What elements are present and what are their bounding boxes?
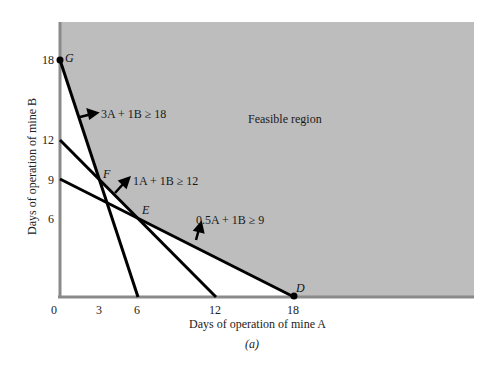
x-tick-12: 12 bbox=[209, 303, 221, 317]
constraint-label-3: 0.5A + 1B ≥ 9 bbox=[196, 213, 264, 227]
y-tick-9: 9 bbox=[48, 173, 54, 187]
x-tick-6: 6 bbox=[134, 303, 140, 317]
caption: (a) bbox=[245, 337, 259, 351]
y-axis-title: Days of operation of mine B bbox=[25, 98, 39, 235]
point-label-g: G bbox=[65, 51, 74, 65]
constraint-label-2: 1A + 1B ≥ 12 bbox=[133, 174, 198, 188]
point-label-e: E bbox=[141, 203, 150, 217]
chart: G F E D 3A + 1B ≥ 18 1A + 1B ≥ 12 0.5A +… bbox=[0, 0, 498, 368]
feasible-region-label: Feasible region bbox=[248, 112, 322, 126]
x-axis-title: Days of operation of mine A bbox=[189, 317, 326, 331]
y-tick-12: 12 bbox=[42, 133, 54, 147]
point-g bbox=[57, 57, 64, 64]
point-label-f: F bbox=[102, 167, 111, 181]
feasible-region bbox=[60, 22, 474, 297]
x-tick-18: 18 bbox=[287, 303, 299, 317]
constraint-label-1: 3A + 1B ≥ 18 bbox=[101, 107, 166, 121]
x-tick-0: 0 bbox=[51, 303, 57, 317]
y-tick-6: 6 bbox=[48, 212, 54, 226]
x-tick-3: 3 bbox=[96, 303, 102, 317]
y-tick-18: 18 bbox=[42, 53, 54, 67]
point-label-d: D bbox=[295, 281, 305, 295]
